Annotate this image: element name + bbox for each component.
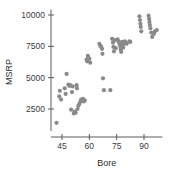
data-point bbox=[139, 29, 143, 33]
data-point bbox=[59, 98, 63, 102]
data-point bbox=[119, 50, 123, 54]
y-tick-label: 10000 bbox=[21, 10, 45, 20]
x-tick-label: 45 bbox=[57, 141, 67, 151]
data-point bbox=[102, 88, 106, 92]
data-point bbox=[114, 46, 118, 50]
data-point bbox=[64, 92, 68, 96]
data-point bbox=[88, 61, 92, 65]
data-point bbox=[121, 45, 125, 49]
data-point bbox=[100, 52, 104, 56]
data-point bbox=[74, 111, 78, 115]
data-point bbox=[87, 57, 91, 61]
y-tick-label: 7500 bbox=[26, 41, 45, 51]
data-point bbox=[128, 40, 132, 44]
data-point bbox=[63, 86, 67, 90]
data-point bbox=[69, 108, 73, 112]
x-tick-label: 90 bbox=[139, 141, 149, 151]
data-point bbox=[100, 47, 104, 51]
data-point bbox=[83, 98, 87, 102]
data-point bbox=[138, 18, 142, 22]
data-point bbox=[137, 14, 141, 18]
y-tick-label: 5000 bbox=[26, 73, 45, 83]
y-axis-ticks: 25005000750010000 bbox=[21, 10, 54, 114]
data-point bbox=[155, 28, 159, 32]
data-point bbox=[139, 25, 143, 29]
data-point bbox=[75, 86, 79, 90]
data-point bbox=[58, 89, 62, 93]
scatter-chart: 25005000750010000 45607590 Bore MSRP bbox=[0, 0, 181, 173]
x-axis-title: Bore bbox=[97, 158, 116, 168]
x-tick-label: 60 bbox=[85, 141, 95, 151]
data-point bbox=[148, 26, 152, 30]
x-tick-label: 75 bbox=[112, 141, 122, 151]
data-point bbox=[70, 90, 74, 94]
chart-canvas: 25005000750010000 45607590 Bore MSRP bbox=[0, 0, 181, 173]
y-tick-label: 2500 bbox=[26, 104, 45, 114]
data-points-layer bbox=[54, 14, 158, 125]
y-axis-title: MSRP bbox=[4, 59, 14, 85]
data-point bbox=[64, 72, 68, 76]
data-point bbox=[54, 121, 58, 125]
data-point bbox=[101, 76, 105, 80]
data-point bbox=[70, 84, 74, 88]
data-point bbox=[108, 88, 112, 92]
